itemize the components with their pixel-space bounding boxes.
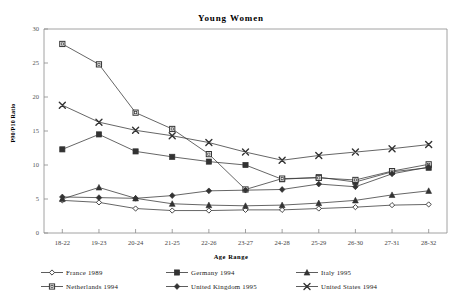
data-point-marker	[353, 177, 358, 182]
marker-filled-square	[170, 154, 175, 159]
data-point-marker	[169, 193, 175, 199]
data-series	[60, 164, 432, 201]
data-point-marker	[353, 205, 358, 210]
data-point-marker	[279, 187, 285, 193]
data-point-marker	[243, 162, 248, 167]
legend-marker-open-diamond-icon	[40, 267, 64, 278]
data-point-marker	[280, 207, 285, 212]
marker-open-square-inner	[281, 178, 283, 180]
data-point-marker	[280, 176, 285, 181]
data-point-marker	[96, 184, 102, 190]
marker-open-diamond	[389, 203, 394, 208]
marker-open-square-inner	[61, 43, 63, 45]
x-axis-ticks	[62, 229, 428, 233]
legend-item[interactable]: Germany 1994	[165, 266, 235, 279]
marker-open-square-inner	[134, 112, 136, 114]
legend-item[interactable]: Italy 1995	[295, 266, 351, 279]
y-tick-label: 25	[13, 59, 39, 66]
marker-open-diamond	[280, 207, 285, 212]
marker-cross-x	[96, 119, 102, 125]
data-point-marker	[49, 284, 54, 289]
marker-open-square-inner	[208, 153, 210, 155]
data-point-marker	[426, 188, 432, 194]
data-point-marker	[133, 206, 138, 211]
data-series	[60, 41, 432, 192]
legend-item[interactable]: Netherlands 1994	[40, 280, 118, 293]
y-tick-label: 30	[13, 25, 39, 32]
legend-item[interactable]: United Kingdom 1995	[165, 280, 257, 293]
marker-open-diamond	[316, 206, 321, 211]
marker-filled-square	[60, 147, 65, 152]
data-point-marker	[206, 159, 211, 164]
y-tick-label: 20	[13, 93, 39, 100]
marker-filled-square	[96, 132, 101, 137]
series-line	[62, 167, 428, 198]
legend-item[interactable]: France 1989	[40, 266, 103, 279]
marker-filled-diamond	[279, 187, 285, 193]
legend-label: Germany 1994	[191, 269, 235, 276]
marker-filled-square	[243, 162, 248, 167]
data-point-marker	[316, 175, 321, 180]
marker-filled-square	[206, 159, 211, 164]
data-point-marker	[316, 206, 321, 211]
data-series	[60, 132, 432, 185]
data-point-marker	[389, 203, 394, 208]
data-point-marker	[174, 284, 180, 290]
marker-cross-x	[206, 140, 212, 146]
marker-open-diamond	[170, 208, 175, 213]
marker-filled-square	[174, 270, 179, 275]
data-point-marker	[96, 132, 101, 137]
data-point-marker	[243, 149, 249, 155]
x-axis-label: Age Range	[0, 253, 462, 260]
y-tick-label: 5	[13, 195, 39, 202]
data-point-marker	[170, 208, 175, 213]
data-point-marker	[60, 194, 66, 200]
legend-label: France 1989	[66, 269, 103, 276]
data-point-marker	[49, 270, 54, 275]
legend-marker-filled-square-icon	[165, 267, 189, 278]
data-point-marker	[170, 154, 175, 159]
data-point-marker	[206, 208, 211, 213]
marker-open-diamond	[49, 270, 54, 275]
marker-filled-diamond	[206, 188, 212, 194]
marker-filled-diamond	[60, 194, 66, 200]
data-point-marker	[60, 147, 65, 152]
data-point-marker	[206, 152, 211, 157]
marker-open-square-inner	[171, 128, 173, 130]
y-tick-label: 10	[13, 161, 39, 168]
marker-open-diamond	[353, 205, 358, 210]
marker-open-square-inner	[98, 63, 100, 65]
marker-filled-diamond	[316, 181, 322, 187]
data-point-marker	[133, 110, 138, 115]
marker-open-diamond	[426, 202, 431, 207]
data-point-marker	[426, 202, 431, 207]
chart-title: Young Women	[0, 13, 462, 23]
marker-open-diamond	[133, 206, 138, 211]
data-point-marker	[206, 140, 212, 146]
marker-filled-triangle	[96, 184, 102, 190]
data-point-marker	[206, 188, 212, 194]
data-point-marker	[96, 195, 102, 201]
marker-open-square-inner	[51, 285, 53, 287]
data-series	[59, 102, 431, 163]
legend-marker-filled-diamond-icon	[165, 281, 189, 292]
legend-item[interactable]: United States 1994	[295, 280, 377, 293]
series-line	[62, 134, 428, 182]
marker-cross-x	[243, 149, 249, 155]
marker-filled-diamond	[174, 284, 180, 290]
marker-open-diamond	[206, 208, 211, 213]
y-tick-label: 0	[13, 229, 39, 236]
marker-filled-diamond	[169, 193, 175, 199]
legend-label: Italy 1995	[321, 269, 351, 276]
data-point-marker	[60, 41, 65, 46]
x-tick-label: 28-32	[406, 239, 452, 246]
marker-filled-triangle	[426, 188, 432, 194]
marker-open-square-inner	[318, 177, 320, 179]
y-tick-label: 15	[13, 127, 39, 134]
data-point-marker	[59, 102, 65, 108]
data-point-marker	[174, 270, 179, 275]
marker-cross-x	[59, 102, 65, 108]
data-point-marker	[96, 119, 102, 125]
legend-label: Netherlands 1994	[66, 283, 118, 290]
legend-label: United States 1994	[321, 283, 377, 290]
